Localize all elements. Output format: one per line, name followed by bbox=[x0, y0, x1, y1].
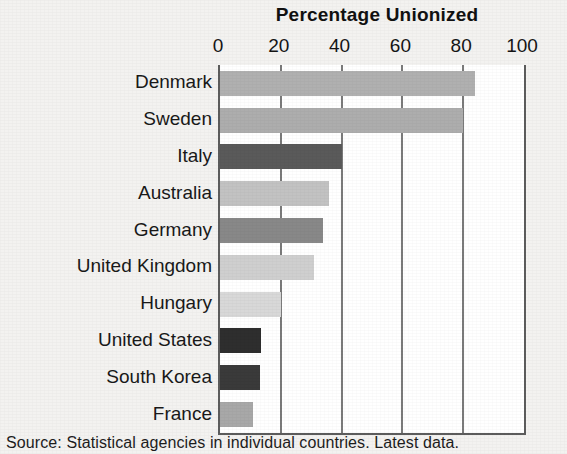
x-tick-label-0: 0 bbox=[213, 35, 224, 57]
x-tick-label-60: 60 bbox=[390, 35, 411, 57]
category-label-united-states: United States bbox=[0, 329, 212, 351]
source-note: Source: Statistical agencies in individu… bbox=[6, 434, 459, 452]
bar-row bbox=[220, 65, 524, 102]
x-tick-label-20: 20 bbox=[268, 35, 289, 57]
plot-area bbox=[218, 65, 526, 435]
x-tick-label-100: 100 bbox=[506, 35, 538, 57]
bar-italy bbox=[220, 144, 342, 169]
category-label-hungary: Hungary bbox=[0, 292, 212, 314]
bar-row bbox=[220, 102, 524, 139]
bar-row bbox=[220, 286, 524, 323]
chart-title: Percentage Unionized bbox=[232, 4, 522, 26]
bar-denmark bbox=[220, 71, 475, 96]
bar-hungary bbox=[220, 292, 281, 317]
category-label-sweden: Sweden bbox=[0, 108, 212, 130]
x-tick-label-80: 80 bbox=[451, 35, 472, 57]
bar-sweden bbox=[220, 108, 463, 133]
category-axis-labels: DenmarkSwedenItalyAustraliaGermanyUnited… bbox=[0, 65, 212, 433]
bar-row bbox=[220, 139, 524, 176]
category-label-south-korea: South Korea bbox=[0, 366, 212, 388]
category-label-united-kingdom: United Kingdom bbox=[0, 255, 212, 277]
category-label-australia: Australia bbox=[0, 182, 212, 204]
category-label-germany: Germany bbox=[0, 219, 212, 241]
bar-united-states bbox=[220, 328, 261, 353]
bar-row bbox=[220, 249, 524, 286]
bar-row bbox=[220, 323, 524, 360]
bar-south-korea bbox=[220, 365, 260, 390]
x-tick-label-40: 40 bbox=[329, 35, 350, 57]
category-label-italy: Italy bbox=[0, 145, 212, 167]
bar-row bbox=[220, 212, 524, 249]
bar-germany bbox=[220, 218, 323, 243]
category-label-denmark: Denmark bbox=[0, 71, 212, 93]
bar-row bbox=[220, 396, 524, 433]
bar-united-kingdom bbox=[220, 255, 314, 280]
bar-row bbox=[220, 175, 524, 212]
bar-row bbox=[220, 359, 524, 396]
chart-figure: Percentage Unionized 020406080100 Denmar… bbox=[0, 0, 567, 454]
category-label-france: France bbox=[0, 403, 212, 425]
bar-australia bbox=[220, 181, 329, 206]
bar-france bbox=[220, 402, 253, 427]
